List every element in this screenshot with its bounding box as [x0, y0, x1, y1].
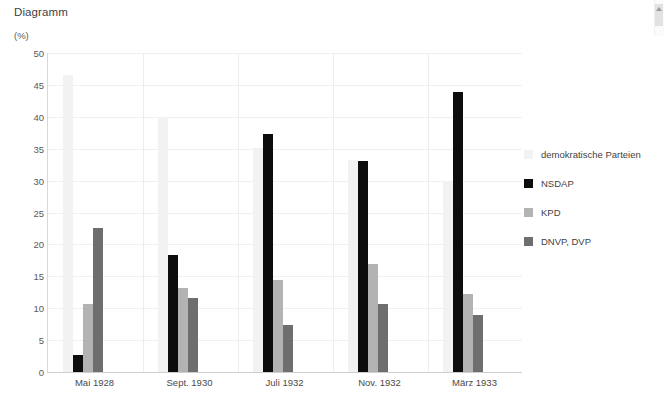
bar[interactable] — [168, 255, 178, 372]
y-axis-tick-label: 15 — [4, 271, 44, 282]
bar[interactable] — [443, 181, 453, 372]
legend-item-label: KPD — [541, 207, 561, 218]
y-axis-tick-label: 45 — [4, 79, 44, 90]
category-separator — [143, 53, 144, 372]
y-axis-tick-label: 50 — [4, 48, 44, 59]
category-separator — [238, 53, 239, 372]
bar[interactable] — [358, 161, 368, 372]
y-axis-tick-label: 0 — [4, 367, 44, 378]
bar[interactable] — [83, 304, 93, 372]
y-axis-tick-label: 40 — [4, 111, 44, 122]
bar[interactable] — [178, 288, 188, 372]
legend-item-label: demokratische Parteien — [541, 149, 641, 160]
vertical-scrollbar[interactable] — [654, 0, 664, 36]
bar[interactable] — [378, 304, 388, 372]
bar[interactable] — [273, 280, 283, 373]
bar[interactable] — [63, 75, 73, 372]
chevron-up-icon[interactable] — [656, 7, 662, 11]
bar[interactable] — [368, 264, 378, 372]
y-axis-tick-label: 30 — [4, 175, 44, 186]
bar[interactable] — [253, 148, 263, 372]
legend-item[interactable]: KPD — [524, 198, 660, 227]
y-axis-tick-label: 25 — [4, 207, 44, 218]
bar[interactable] — [93, 228, 103, 372]
x-axis-tick-label: Juli 1932 — [265, 377, 303, 388]
legend-item[interactable]: NSDAP — [524, 169, 660, 198]
bar-group — [443, 53, 483, 372]
y-axis-tick-labels: 05101520253035404550 — [0, 0, 44, 405]
legend-swatch — [524, 150, 533, 159]
legend-swatch — [524, 179, 533, 188]
bar[interactable] — [463, 294, 473, 372]
legend-swatch — [524, 208, 533, 217]
legend-swatch — [524, 237, 533, 246]
category-separator — [428, 53, 429, 372]
legend-item-label: NSDAP — [541, 178, 574, 189]
y-axis-tick-label: 20 — [4, 239, 44, 250]
bar[interactable] — [158, 117, 168, 372]
legend-item[interactable]: DNVP, DVP — [524, 227, 660, 256]
x-axis-line — [47, 372, 522, 373]
bar[interactable] — [473, 315, 483, 372]
bar[interactable] — [283, 325, 293, 372]
chart-legend: demokratische ParteienNSDAPKPDDNVP, DVP — [524, 140, 660, 256]
bar-group — [158, 53, 198, 372]
bar[interactable] — [263, 134, 273, 372]
bar[interactable] — [453, 92, 463, 372]
bar[interactable] — [348, 160, 358, 372]
x-axis-tick-label: März 1933 — [452, 377, 497, 388]
bar[interactable] — [73, 355, 83, 372]
y-axis-tick-label: 35 — [4, 143, 44, 154]
legend-item[interactable]: demokratische Parteien — [524, 140, 660, 169]
legend-item-label: DNVP, DVP — [541, 236, 591, 247]
bar-group — [253, 53, 293, 372]
chart-screenshot: Diagramm (%) 05101520253035404550 Mai 19… — [0, 0, 664, 405]
x-axis-tick-label: Mai 1928 — [75, 377, 114, 388]
x-axis-tick-label: Sept. 1930 — [167, 377, 213, 388]
plot-area — [47, 53, 522, 372]
category-separator — [333, 53, 334, 372]
x-axis-tick-label: Nov. 1932 — [358, 377, 401, 388]
bar[interactable] — [188, 298, 198, 372]
y-axis-tick-label: 5 — [4, 335, 44, 346]
y-axis-tick-label: 10 — [4, 303, 44, 314]
bar-group — [348, 53, 388, 372]
bar-group — [63, 53, 103, 372]
